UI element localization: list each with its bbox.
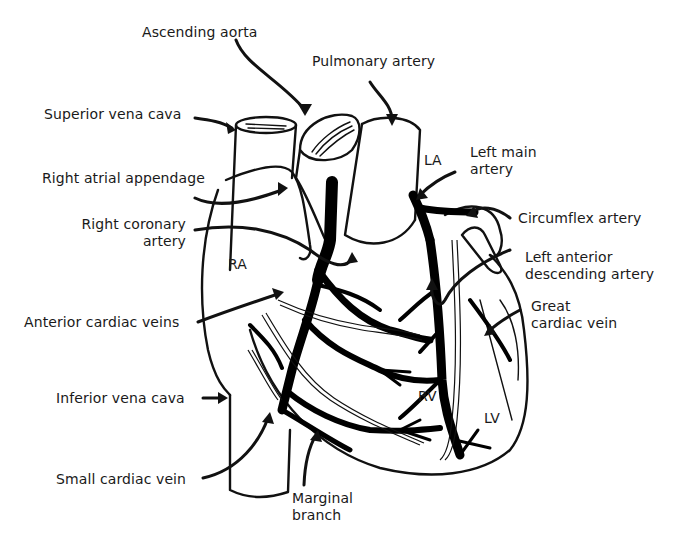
label-right-coronary-artery-line2: artery <box>78 233 186 250</box>
heart-diagram: Ascending aorta Pulmonary artery Superio… <box>0 0 676 540</box>
label-marginal-branch: Marginal branch <box>292 490 353 524</box>
chamber-label-la: LA <box>424 152 442 168</box>
ventricle-outline <box>250 207 527 475</box>
label-lad-line2: descending artery <box>525 266 654 283</box>
chamber-label-rv: RV <box>418 388 437 404</box>
label-right-coronary-artery-line1: Right coronary <box>78 216 186 233</box>
pulmonary-artery-shape <box>345 118 420 244</box>
label-right-atrial-appendage: Right atrial appendage <box>42 170 205 187</box>
label-great-cardiac-vein-line2: cardiac vein <box>531 315 617 332</box>
label-right-coronary-artery: Right coronary artery <box>78 216 186 250</box>
label-pulmonary-artery: Pulmonary artery <box>312 53 435 70</box>
label-marginal-branch-line2: branch <box>292 507 353 524</box>
label-inferior-vena-cava: Inferior vena cava <box>56 390 185 407</box>
label-circumflex-artery: Circumflex artery <box>518 210 641 227</box>
label-marginal-branch-line1: Marginal <box>292 490 353 507</box>
label-left-main-artery-line2: artery <box>470 161 537 178</box>
label-anterior-cardiac-veins: Anterior cardiac veins <box>24 314 179 331</box>
label-ascending-aorta: Ascending aorta <box>142 24 258 41</box>
label-left-main-artery: Left main artery <box>470 144 537 178</box>
label-great-cardiac-vein: Great cardiac vein <box>531 298 617 332</box>
chamber-label-ra: RA <box>228 256 247 272</box>
label-left-anterior-descending-artery: Left anterior descending artery <box>525 249 654 283</box>
chamber-label-lv: LV <box>484 410 500 426</box>
label-small-cardiac-vein: Small cardiac vein <box>56 471 186 488</box>
label-superior-vena-cava: Superior vena cava <box>44 106 181 123</box>
label-lad-line1: Left anterior <box>525 249 654 266</box>
label-left-main-artery-line1: Left main <box>470 144 537 161</box>
superior-vena-cava-shape <box>230 117 296 270</box>
label-great-cardiac-vein-line1: Great <box>531 298 617 315</box>
